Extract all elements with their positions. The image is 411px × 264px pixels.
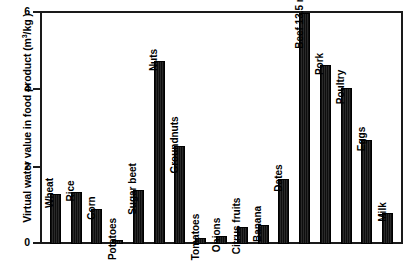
y-axis-title-prefix: Virtual water value in food product (m: [21, 38, 33, 222]
bar[interactable]: Onions: [216, 236, 227, 244]
bar-label: Groundnuts: [170, 116, 180, 173]
bar-slot: Pork: [315, 13, 336, 244]
bar-slot: Potatoes: [107, 13, 128, 244]
bar[interactable]: Pork: [320, 65, 331, 244]
bar[interactable]: Dates: [278, 179, 289, 244]
y-tick-mark-6: [33, 11, 40, 13]
bar[interactable]: Poultry: [341, 88, 352, 244]
bar[interactable]: Eggs: [361, 140, 372, 244]
bar-slot: Nuts: [149, 13, 170, 244]
bar-label: Onions: [212, 218, 222, 252]
bar-slot: Citrus fruits: [232, 13, 253, 244]
bar-slot: Rice: [66, 13, 87, 244]
bar-slot: Dates: [273, 13, 294, 244]
y-axis-title: Virtual water value in food product (m3/…: [21, 3, 33, 233]
y-tick-mark-2: [33, 166, 40, 168]
bar[interactable]: Tomatoes: [195, 238, 206, 244]
bar-label: Rice: [66, 180, 76, 201]
bar-slot: Wheat: [45, 13, 66, 244]
bar[interactable]: Beef 13.5 m3/kg: [299, 13, 310, 244]
y-tick-label-6: 6: [8, 6, 30, 17]
bar-label-text: Beef 13.5 m: [294, 0, 305, 49]
bar-label: Banana: [253, 206, 263, 242]
bar[interactable]: Wheat: [50, 194, 61, 244]
bar-slot: Milk: [377, 13, 398, 244]
bar-label: Sugar beet: [128, 163, 138, 215]
bar[interactable]: Rice: [71, 192, 82, 244]
bar[interactable]: Potatoes: [112, 240, 123, 244]
bar-slot: Beef 13.5 m3/kg: [294, 13, 315, 244]
bar[interactable]: Milk: [382, 213, 393, 244]
bar-label: Beef 13.5 m3/kg: [295, 0, 305, 49]
bar[interactable]: Banana: [258, 225, 269, 244]
bar-label: Milk: [378, 202, 388, 221]
bar-slot: Corn: [87, 13, 108, 244]
bar-chart-figure: Virtual water value in food product (m3/…: [0, 0, 411, 264]
bar-slot: Poultry: [336, 13, 357, 244]
bar-label: Nuts: [149, 49, 159, 71]
y-tick-label-2: 2: [8, 161, 30, 172]
bar[interactable]: Groundnuts: [174, 146, 185, 244]
bar[interactable]: Nuts: [154, 61, 165, 244]
bar-label: Corn: [87, 196, 97, 219]
bar-label: Poultry: [336, 70, 346, 104]
y-tick-label-0: 0: [8, 237, 30, 248]
y-tick-mark-4: [33, 88, 40, 90]
bar[interactable]: Sugar beet: [133, 190, 144, 244]
y-tick-mark-0: [33, 242, 40, 244]
bar-label: Eggs: [357, 127, 367, 151]
bar-label: Potatoes: [108, 218, 118, 260]
bar-label: Pork: [315, 53, 325, 75]
bar-slot: Sugar beet: [128, 13, 149, 244]
bars-area: WheatRiceCornPotatoesSugar beetNutsGroun…: [42, 13, 401, 244]
bar[interactable]: Corn: [91, 209, 102, 244]
bar-slot: Groundnuts: [170, 13, 191, 244]
bar[interactable]: Citrus fruits: [237, 227, 248, 244]
bar-slot: Tomatoes: [190, 13, 211, 244]
bar-label: Citrus fruits: [232, 198, 242, 255]
bar-label: Wheat: [45, 178, 55, 208]
y-tick-label-4: 4: [8, 83, 30, 94]
bar-slot: Banana: [253, 13, 274, 244]
bar-label: Tomatoes: [191, 214, 201, 261]
bar-label: Dates: [274, 164, 284, 191]
bar-slot: Onions: [211, 13, 232, 244]
y-axis-title-superscript: 3: [21, 34, 28, 38]
bar-slot: Eggs: [356, 13, 377, 244]
